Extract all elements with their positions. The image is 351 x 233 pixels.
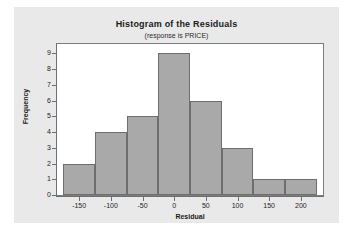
y-axis-tick — [52, 148, 56, 149]
y-axis-title: Frequency — [22, 77, 29, 137]
chart-title: Histogram of the Residuals — [14, 19, 339, 29]
y-axis-tick — [52, 164, 56, 165]
histogram-screenshot: Histogram of the Residuals (response is … — [0, 0, 351, 233]
chart-subtitle: (response is PRICE) — [14, 32, 339, 39]
histogram-bar — [63, 164, 95, 195]
x-axis-title: Residual — [56, 213, 324, 220]
y-axis-tick — [52, 179, 56, 180]
y-axis-tick-label: 9 — [15, 49, 51, 56]
histogram-bar — [95, 132, 127, 195]
x-axis-tick-label: 200 — [281, 202, 321, 210]
x-axis-tick — [269, 197, 270, 201]
histogram-bar — [285, 179, 317, 195]
histogram-bar — [190, 101, 222, 195]
y-axis-tick — [52, 53, 56, 54]
y-axis-tick-label: 7 — [15, 81, 51, 88]
x-axis-tick — [174, 197, 175, 201]
y-axis-tick-label: 0 — [15, 191, 51, 198]
histogram-bar — [253, 179, 285, 195]
histogram-bar — [222, 148, 254, 195]
plot-area — [57, 44, 323, 195]
x-axis-tick — [79, 197, 80, 201]
y-axis-tick-label: 8 — [15, 65, 51, 72]
y-axis-tick-label: 2 — [15, 160, 51, 167]
x-axis-tick — [238, 197, 239, 201]
y-axis-tick-label: 3 — [15, 144, 51, 151]
histogram-bar — [127, 116, 159, 195]
y-axis-tick-label: 1 — [15, 175, 51, 182]
x-axis-tick — [111, 197, 112, 201]
y-axis-tick — [52, 85, 56, 86]
y-axis-tick — [52, 69, 56, 70]
x-axis-line — [56, 196, 324, 197]
y-axis-tick-label: 6 — [15, 97, 51, 104]
y-axis-line — [56, 43, 57, 196]
x-axis-tick — [206, 197, 207, 201]
y-axis-tick-label: 4 — [15, 128, 51, 135]
histogram-bars — [57, 44, 323, 195]
y-axis-tick — [52, 101, 56, 102]
x-axis-tick — [301, 197, 302, 201]
y-axis-tick — [52, 132, 56, 133]
figure-panel: Histogram of the Residuals (response is … — [14, 7, 339, 223]
y-axis-tick — [52, 116, 56, 117]
x-axis-tick — [143, 197, 144, 201]
y-axis-tick-label: 5 — [15, 112, 51, 119]
histogram-bar — [158, 53, 190, 195]
